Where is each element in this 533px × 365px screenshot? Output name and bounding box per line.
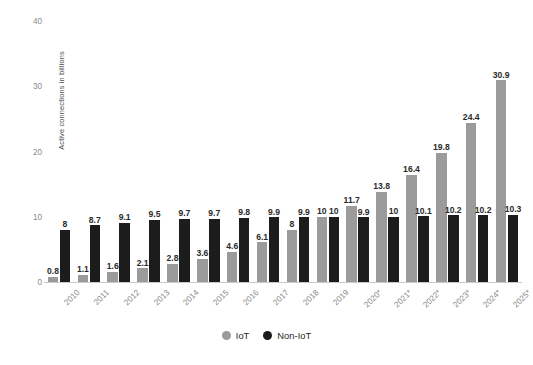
bar-noniot: 9.9	[299, 217, 310, 282]
x-axis-tick-label: 2023*	[452, 288, 474, 310]
x-axis-tick-label: 2015	[212, 288, 231, 307]
bar-value-label: 8	[290, 220, 295, 229]
bar-value-label: 1.6	[107, 262, 119, 271]
bar-value-label: 9.9	[298, 208, 310, 217]
y-axis-tick-label: 30	[33, 82, 42, 91]
bar-iot: 8	[287, 230, 298, 282]
bar-group: 4.69.8	[227, 8, 249, 282]
bar-group: 2.89.7	[167, 8, 189, 282]
x-axis-tick-label: 2025*	[511, 288, 533, 310]
x-axis-ticks: 2010201120122013201420152016201720182019…	[44, 284, 522, 324]
bar-value-label: 8.7	[89, 216, 101, 225]
legend-label: IoT	[236, 330, 250, 341]
x-axis-tick-label: 2017	[271, 288, 290, 307]
bar-iot: 13.8	[376, 192, 387, 282]
bar-value-label: 9.7	[178, 209, 190, 218]
bar-value-label: 4.6	[226, 242, 238, 251]
y-axis-tick-label: 10	[33, 212, 42, 221]
bar-value-label: 11.7	[344, 196, 360, 205]
bar-value-label: 24.4	[463, 113, 480, 122]
y-axis-ticks: 010203040	[0, 0, 48, 365]
legend-item-non-iot[interactable]: Non-IoT	[263, 330, 311, 341]
bar-value-label: 10.2	[475, 206, 492, 215]
x-axis-tick-label: 2018	[301, 288, 320, 307]
legend-swatch-circle-icon	[222, 331, 231, 340]
x-axis-tick-label: 2020*	[362, 288, 384, 310]
bar-noniot: 9.7	[209, 219, 220, 282]
bar-value-label: 1.1	[77, 265, 89, 274]
legend-swatch-circle-icon	[263, 331, 272, 340]
bar-iot: 4.6	[227, 252, 238, 282]
bar-iot: 11.7	[346, 206, 357, 282]
bar-value-label: 10.3	[505, 205, 522, 214]
bar-group: 24.410.2	[466, 8, 488, 282]
bar-value-label: 9.8	[238, 208, 250, 217]
x-axis-tick-label: 2013	[152, 288, 171, 307]
bar-value-label: 10	[389, 207, 399, 216]
bar-group: 0.88	[48, 8, 70, 282]
bar-group: 3.69.7	[197, 8, 219, 282]
bar-noniot: 10.1	[418, 216, 429, 282]
bar-value-label: 9.5	[149, 210, 161, 219]
bar-noniot: 9.9	[269, 217, 280, 282]
bar-group: 2.19.5	[137, 8, 159, 282]
bar-iot: 16.4	[406, 175, 417, 282]
bar-value-label: 10.1	[415, 207, 432, 216]
bar-noniot: 8.7	[90, 225, 101, 282]
bar-value-label: 13.8	[373, 182, 390, 191]
bar-value-label: 16.4	[403, 165, 420, 174]
plot-area: 0.881.18.71.69.12.19.52.89.73.69.74.69.8…	[44, 8, 522, 282]
chart-legend: IoTNon-IoT	[0, 330, 533, 341]
bar-value-label: 6.1	[256, 233, 268, 242]
bar-noniot: 9.1	[119, 223, 130, 282]
bar-group: 11.79.9	[346, 8, 368, 282]
bar-value-label: 0.8	[47, 267, 59, 276]
x-axis-tick-label: 2012	[122, 288, 141, 307]
bar-iot: 3.6	[197, 259, 208, 282]
bar-noniot: 9.9	[358, 217, 369, 282]
bar-value-label: 10	[317, 207, 327, 216]
bar-group: 89.9	[287, 8, 309, 282]
bar-noniot: 10.2	[478, 215, 489, 282]
x-axis-tick-label: 2019	[331, 288, 350, 307]
bar-group: 16.410.1	[406, 8, 428, 282]
bar-value-label: 2.1	[137, 259, 149, 268]
bar-group: 19.810.2	[436, 8, 458, 282]
bar-group: 1.69.1	[107, 8, 129, 282]
legend-label: Non-IoT	[277, 330, 311, 341]
bar-value-label: 9.9	[268, 208, 280, 217]
bar-iot: 30.9	[496, 80, 507, 282]
x-axis-tick-label: 2014	[182, 288, 201, 307]
bar-group: 1010	[317, 8, 339, 282]
bar-value-label: 9.7	[208, 209, 220, 218]
bar-noniot: 9.5	[149, 220, 160, 282]
bar-group: 1.18.7	[78, 8, 100, 282]
bar-iot: 6.1	[257, 242, 268, 282]
bar-value-label: 9.9	[358, 208, 370, 217]
bar-iot: 2.1	[137, 268, 148, 282]
bar-value-label: 2.8	[167, 254, 179, 263]
bar-value-label: 9.1	[119, 213, 131, 222]
bar-iot: 24.4	[466, 123, 477, 282]
x-axis-tick-label: 2011	[92, 288, 111, 307]
bar-value-label: 8	[62, 220, 67, 229]
bar-noniot: 8	[60, 230, 71, 282]
bar-noniot: 10	[388, 217, 399, 282]
chart-figure: Active connections in billions 010203040…	[0, 0, 533, 365]
legend-item-iot[interactable]: IoT	[222, 330, 250, 341]
bar-iot: 19.8	[436, 153, 447, 282]
bar-iot: 10	[317, 217, 328, 282]
bar-noniot: 10.3	[508, 215, 519, 282]
bar-group: 6.19.9	[257, 8, 279, 282]
x-axis-tick-label: 2022*	[422, 288, 444, 310]
bar-noniot: 9.8	[239, 218, 250, 282]
bar-noniot: 10.2	[448, 215, 459, 282]
x-axis-baseline	[44, 282, 522, 283]
x-axis-tick-label: 2021*	[392, 288, 414, 310]
bar-iot: 2.8	[167, 264, 178, 282]
bar-noniot: 10	[329, 217, 340, 282]
bar-value-label: 30.9	[493, 71, 510, 80]
x-axis-tick-label: 2024*	[481, 288, 503, 310]
y-axis-tick-label: 40	[33, 17, 42, 26]
bar-group: 30.910.3	[496, 8, 518, 282]
